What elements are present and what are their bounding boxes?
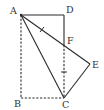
label-e: E [92, 59, 99, 70]
geometry-diagram: A D F E B C [0, 0, 104, 110]
label-b: B [14, 98, 21, 109]
segment-ae [21, 15, 90, 64]
label-d: D [66, 4, 74, 15]
segment-ce [64, 64, 90, 98]
label-c: C [62, 99, 69, 110]
point-a-dot [20, 14, 22, 16]
label-f: F [67, 35, 74, 46]
segment-ac [21, 15, 64, 98]
label-a: A [9, 5, 17, 16]
